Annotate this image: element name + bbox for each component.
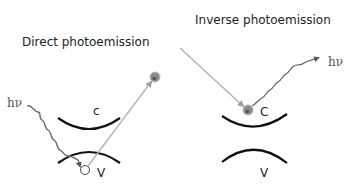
conduction-band-label: C — [260, 105, 268, 119]
conduction-band-curve — [222, 114, 287, 127]
valence-band-label: V — [260, 166, 269, 180]
photoemission-diagram: Direct photoemission c V hν e Inverse ph… — [0, 0, 352, 186]
conduction-band-label: c — [93, 104, 100, 118]
photon-label: hν — [7, 96, 22, 110]
valence-band-curve — [58, 152, 120, 163]
incoming-photon-wave — [27, 106, 80, 166]
inverse-photoemission-panel: Inverse photoemission C V e hν — [180, 13, 343, 180]
valence-band-curve — [222, 150, 287, 163]
conduction-band-curve — [58, 118, 120, 129]
emitted-photon-wave — [252, 58, 318, 106]
photon-label: hν — [328, 55, 343, 69]
direct-photoemission-title: Direct photoemission — [22, 35, 150, 49]
incoming-electron-path — [180, 48, 243, 106]
direct-photoemission-panel: Direct photoemission c V hν e — [7, 35, 160, 180]
emitted-electron-path — [88, 82, 151, 166]
electron-label: e — [246, 107, 250, 114]
inverse-photoemission-title: Inverse photoemission — [195, 13, 331, 27]
electron-label: e — [153, 74, 157, 81]
valence-band-label: V — [97, 166, 106, 180]
hole-icon — [81, 166, 90, 175]
